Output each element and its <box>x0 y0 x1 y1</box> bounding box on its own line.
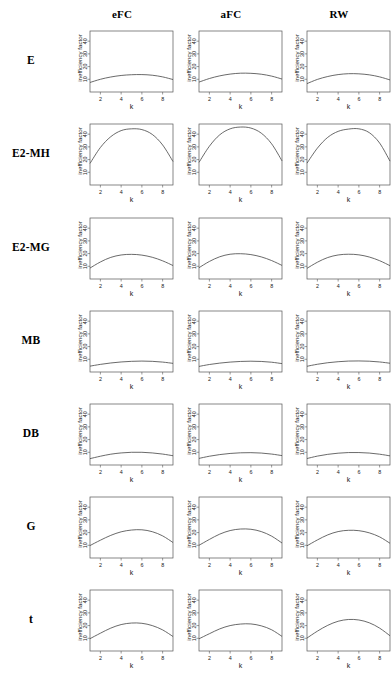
plot-panel-db-afc: inefficiency factor102030402468k <box>183 401 285 487</box>
x-tick-label: 6 <box>249 189 252 195</box>
data-curve-e-efc <box>90 75 173 83</box>
y-tick-label: 10 <box>299 169 305 175</box>
x-tick-label: 2 <box>99 376 102 382</box>
y-tick-label: 20 <box>191 157 197 163</box>
plot-panel-t-efc: inefficiency factor102030402468k <box>74 587 176 673</box>
data-curve-db-afc <box>199 453 282 459</box>
plot-svg-mb-efc: 102030402468 <box>74 308 176 394</box>
plot-panel-e2-mg-rw: inefficiency factor102030402468k <box>291 215 392 301</box>
plot-panel-mb-rw: inefficiency factor102030402468k <box>291 308 392 394</box>
y-tick-label: 30 <box>299 51 305 57</box>
x-tick-label: 2 <box>99 655 102 661</box>
x-tick-label: 8 <box>161 283 164 289</box>
y-tick-label: 10 <box>191 263 197 269</box>
row-label-t: t <box>0 613 62 625</box>
plot-frame-e2-mg-afc <box>199 218 282 279</box>
y-tick-label: 20 <box>82 437 88 443</box>
plot-frame-mb-rw <box>307 311 390 372</box>
x-tick-label: 6 <box>357 469 360 475</box>
y-tick-label: 40 <box>191 131 197 137</box>
x-axis-label-g-afc: k <box>205 569 277 576</box>
data-curve-db-rw <box>307 452 390 458</box>
plot-frame-e2-mg-efc <box>90 218 173 279</box>
y-tick-label: 30 <box>299 144 305 150</box>
plot-svg-e2-mh-efc: 102030402468 <box>74 121 176 207</box>
y-tick-label: 30 <box>82 517 88 523</box>
y-tick-label: 40 <box>191 225 197 231</box>
x-tick-label: 2 <box>99 283 102 289</box>
plot-panel-g-efc: inefficiency factor102030402468k <box>74 494 176 580</box>
x-tick-label: 4 <box>120 283 123 289</box>
y-tick-label: 40 <box>191 318 197 324</box>
y-tick-label: 20 <box>191 344 197 350</box>
x-tick-label: 2 <box>316 562 319 568</box>
y-tick-label: 10 <box>82 76 88 82</box>
y-tick-label: 40 <box>299 597 305 603</box>
data-curve-e2-mg-efc <box>90 254 173 268</box>
row-label-g: G <box>0 520 62 532</box>
y-tick-label: 20 <box>82 530 88 536</box>
x-tick-label: 2 <box>208 189 211 195</box>
y-tick-label: 40 <box>82 225 88 231</box>
x-tick-label: 4 <box>337 655 340 661</box>
plot-svg-t-efc: 102030402468 <box>74 587 176 673</box>
y-tick-label: 20 <box>191 251 197 257</box>
plot-frame-g-afc <box>199 497 282 558</box>
data-curve-db-efc <box>90 452 173 458</box>
data-curve-e2-mg-afc <box>199 254 282 268</box>
y-tick-label: 40 <box>191 597 197 603</box>
x-axis-label-e2-mg-afc: k <box>205 290 277 297</box>
x-tick-label: 6 <box>140 283 143 289</box>
x-tick-label: 8 <box>378 562 381 568</box>
y-tick-label: 40 <box>82 504 88 510</box>
x-tick-label: 4 <box>337 96 340 102</box>
x-tick-label: 6 <box>249 562 252 568</box>
x-tick-label: 4 <box>229 655 232 661</box>
plot-frame-e-afc <box>199 31 282 92</box>
figure-panel-grid: eFC aFC RW EE2-MHE2-MGMBDBGt inefficienc… <box>0 0 392 678</box>
y-tick-label: 30 <box>191 238 197 244</box>
plot-frame-e2-mh-afc <box>199 124 282 185</box>
x-axis-label-g-efc: k <box>96 569 168 576</box>
plot-svg-db-efc: 102030402468 <box>74 401 176 487</box>
x-tick-label: 4 <box>337 469 340 475</box>
x-tick-label: 2 <box>208 96 211 102</box>
y-tick-label: 30 <box>191 517 197 523</box>
y-tick-label: 20 <box>82 623 88 629</box>
data-curve-mb-efc <box>90 361 173 366</box>
x-axis-label-mb-efc: k <box>96 383 168 390</box>
plot-frame-g-rw <box>307 497 390 558</box>
plot-panel-db-rw: inefficiency factor102030402468k <box>291 401 392 487</box>
plot-panel-e2-mg-afc: inefficiency factor102030402468k <box>183 215 285 301</box>
y-tick-label: 40 <box>82 597 88 603</box>
plot-svg-e-afc: 102030402468 <box>183 28 285 114</box>
x-tick-label: 8 <box>270 376 273 382</box>
x-tick-label: 6 <box>140 189 143 195</box>
row-label-mb: MB <box>0 334 62 346</box>
plot-frame-e2-mh-rw <box>307 124 390 185</box>
y-tick-label: 40 <box>191 38 197 44</box>
plot-area-e-efc: inefficiency factor102030402468k <box>74 28 176 114</box>
row-label-db: DB <box>0 427 62 439</box>
y-tick-label: 20 <box>299 344 305 350</box>
y-tick-label: 30 <box>191 424 197 430</box>
x-tick-label: 4 <box>229 283 232 289</box>
data-curve-e2-mh-efc <box>90 129 173 164</box>
x-tick-label: 6 <box>140 376 143 382</box>
plot-area-e-rw: inefficiency factor102030402468k <box>291 28 392 114</box>
x-axis-label-mb-rw: k <box>313 383 385 390</box>
y-tick-label: 10 <box>191 449 197 455</box>
plot-area-g-efc: inefficiency factor102030402468k <box>74 494 176 580</box>
plot-area-g-rw: inefficiency factor102030402468k <box>291 494 392 580</box>
y-tick-label: 10 <box>299 635 305 641</box>
y-tick-label: 10 <box>82 635 88 641</box>
plot-area-e2-mg-efc: inefficiency factor102030402468k <box>74 215 176 301</box>
x-tick-label: 6 <box>357 376 360 382</box>
data-curve-t-efc <box>90 623 173 639</box>
y-tick-label: 30 <box>82 331 88 337</box>
data-curve-t-rw <box>307 619 390 638</box>
x-tick-label: 6 <box>249 469 252 475</box>
y-tick-label: 40 <box>82 38 88 44</box>
x-axis-label-e-efc: k <box>96 103 168 110</box>
x-axis-label-t-afc: k <box>205 662 277 669</box>
